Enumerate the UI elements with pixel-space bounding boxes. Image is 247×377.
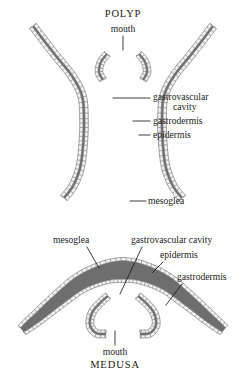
medusa-gastrodermis-label: gastrodermis	[177, 271, 227, 282]
polyp-gastrodermis-label: gastrodermis	[153, 115, 203, 126]
medusa-title: MEDUSA	[90, 359, 140, 370]
medusa-mesoglea-label: mesoglea	[53, 234, 90, 245]
medusa-mouth-label: mouth	[103, 346, 128, 357]
polyp-epidermis-label: epidermis	[153, 129, 191, 140]
polyp-gastrovascular-cavity-label-line2: cavity	[173, 101, 197, 112]
cnidarian-body-forms-figure: POLYPMEDUSAmouthgastrovascularcavitygast…	[0, 0, 247, 377]
polyp-title: POLYP	[105, 8, 142, 19]
medusa-epidermis-label: epidermis	[160, 249, 198, 260]
polyp-mouth-label: mouth	[111, 23, 136, 34]
polyp-mesoglea-label: mesoglea	[148, 195, 185, 206]
medusa-gastrovascular-cavity-label: gastrovascular cavity	[131, 234, 212, 245]
medusa-diagram	[18, 257, 227, 338]
diagram-canvas: POLYPMEDUSAmouthgastrovascularcavitygast…	[0, 0, 247, 377]
